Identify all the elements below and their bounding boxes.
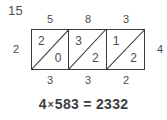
bottom-label-2: 2: [107, 74, 145, 86]
top-label-0: 5: [31, 13, 69, 25]
equals-sign-icon: =: [83, 96, 91, 112]
lattice-grid: 2 0 3 2 1 2: [31, 29, 145, 70]
equation-multiplicand: 583: [55, 96, 79, 112]
right-label: 4: [153, 43, 167, 55]
cell-1-tens-digit: 3: [75, 35, 82, 48]
equation-product: 2332: [96, 96, 128, 112]
bottom-label-1: 3: [69, 74, 107, 86]
lattice-cell-1: 3 2: [69, 30, 106, 69]
lattice-cell-2: 1 2: [107, 30, 144, 69]
problem-number: 15: [8, 3, 23, 18]
lattice-multiplication-figure: 5 8 3 2 0 3 2 1 2 2 4 3 3: [31, 29, 145, 70]
left-label: 2: [9, 43, 23, 55]
cell-0-ones-digit: 0: [55, 52, 62, 65]
cell-2-tens-digit: 1: [113, 35, 120, 48]
cell-2-ones-digit: 2: [130, 52, 137, 65]
top-label-2: 3: [107, 13, 145, 25]
bottom-label-0: 3: [31, 74, 69, 86]
cell-1-ones-digit: 2: [92, 52, 99, 65]
equation-multiplier: 4: [39, 96, 47, 112]
multiplication-sign-icon: ×: [47, 99, 55, 110]
top-label-1: 8: [69, 13, 107, 25]
lattice-cell-0: 2 0: [32, 30, 69, 69]
cell-0-tens-digit: 2: [38, 35, 45, 48]
equation-line: 4×583 = 2332: [0, 96, 167, 114]
